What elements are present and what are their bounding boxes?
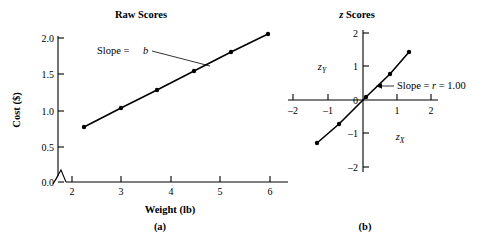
chart-title-z-rest: Scores	[343, 9, 375, 20]
annotation-slope-r: Slope = r = 1.00	[397, 80, 466, 91]
x-tick-label: 1	[395, 105, 400, 116]
x-tick-label: 2	[429, 105, 434, 116]
chart-title-z-scores: z Scores	[338, 9, 375, 20]
statistics-figure: Raw Scores 2.0 1.5 1.0 0.5 0.0 2 3	[0, 0, 482, 235]
y-tick-label: 2	[353, 28, 358, 39]
x-tick-label: –2	[287, 105, 298, 116]
annotation-slope-r-suffix: = 1.00	[436, 80, 466, 91]
x-axis-title-z-sub: X	[399, 136, 405, 145]
y-tick-label: –1	[347, 128, 358, 139]
caption-b: (b)	[359, 221, 372, 233]
chart-panel-z-scores: z Scores –2 –1 1 2 2 1 –1 –2 0 zY	[0, 0, 482, 235]
x-ticks-z	[293, 94, 431, 100]
y-axis-title-z-sub: Y	[322, 66, 327, 75]
y-tick-label: 1	[353, 61, 358, 72]
y-axis-title-z: zY	[317, 61, 327, 75]
y-tick-label: –2	[347, 162, 358, 173]
origin-label-z: 0	[353, 95, 358, 106]
x-tick-label: –1	[322, 105, 333, 116]
annotation-slope-r-prefix: Slope =	[397, 80, 432, 91]
x-axis-title-z: zX	[395, 131, 405, 145]
